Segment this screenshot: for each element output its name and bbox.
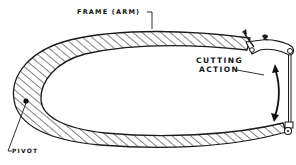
lower-pin-center-icon [287, 130, 289, 132]
bracket-joint-icon [250, 48, 255, 53]
cutting-action-label-line2: ACTION [199, 66, 239, 74]
pivot-icon [23, 98, 28, 103]
frame-arm [13, 32, 286, 148]
upper-bracket-pin-icon [288, 49, 293, 54]
pivot-label: PIVOT [12, 148, 38, 154]
frame-diagram-svg [0, 0, 296, 165]
cutting-action-leader-line [237, 70, 264, 75]
cutting-action-label-line1: CUTTING [196, 57, 243, 65]
blade [289, 55, 292, 125]
diagram-canvas: FRAME (ARM) CUTTING ACTION PIVOT [0, 0, 296, 165]
frame-leader-line [147, 12, 152, 29]
upper-bracket [246, 40, 293, 55]
frame-label: FRAME (ARM) [77, 9, 140, 16]
cutting-action-arrow-icon [271, 64, 279, 122]
